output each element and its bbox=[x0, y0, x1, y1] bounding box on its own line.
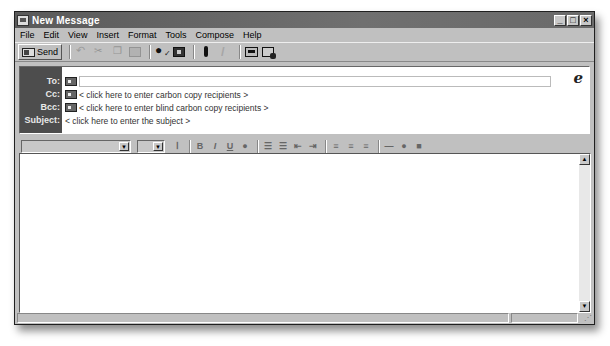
to-label: To: bbox=[47, 75, 60, 88]
menu-format[interactable]: Format bbox=[128, 30, 157, 40]
decrease-indent-icon[interactable]: ⇤ bbox=[292, 141, 304, 151]
toolbar-separator bbox=[189, 140, 191, 153]
scroll-down-button[interactable]: ▼ bbox=[579, 301, 590, 312]
bullet-list-icon[interactable]: ☰ bbox=[277, 141, 289, 151]
menu-file[interactable]: File bbox=[20, 30, 35, 40]
toolbar-separator bbox=[69, 45, 71, 59]
resize-grip[interactable]: ⋰ bbox=[580, 313, 592, 323]
bcc-row: < click here to enter blind carbon copy … bbox=[65, 101, 586, 114]
message-body[interactable]: ▲ ▼ bbox=[19, 153, 591, 313]
send-label: Send bbox=[37, 47, 58, 57]
bcc-field[interactable]: < click here to enter blind carbon copy … bbox=[79, 103, 268, 113]
status-bar: ⋰ bbox=[17, 313, 592, 323]
to-row bbox=[65, 75, 586, 88]
toolbar-separator bbox=[239, 45, 241, 59]
sign-icon[interactable] bbox=[217, 46, 231, 58]
send-icon bbox=[22, 48, 35, 57]
menu-edit[interactable]: Edit bbox=[44, 30, 60, 40]
scroll-up-button[interactable]: ▲ bbox=[579, 154, 590, 165]
close-button[interactable]: × bbox=[580, 15, 592, 26]
font-size-select[interactable]: ▼ bbox=[137, 140, 165, 153]
numbered-list-icon[interactable]: ☰ bbox=[262, 141, 274, 151]
menu-compose[interactable]: Compose bbox=[195, 30, 234, 40]
cc-address-book-icon[interactable] bbox=[65, 90, 77, 99]
address-book-icon[interactable] bbox=[173, 47, 185, 57]
title-bar[interactable]: New Message _ □ × bbox=[15, 12, 594, 28]
attach-icon[interactable] bbox=[199, 46, 213, 58]
menu-tools[interactable]: Tools bbox=[165, 30, 186, 40]
maximize-button[interactable]: □ bbox=[567, 15, 579, 26]
italic-button[interactable]: I bbox=[209, 141, 221, 151]
menu-insert[interactable]: Insert bbox=[96, 30, 119, 40]
toolbar-separator bbox=[149, 45, 151, 59]
status-pane-main bbox=[17, 313, 509, 323]
toolbar-separator bbox=[193, 45, 195, 59]
offline-icon[interactable] bbox=[262, 47, 274, 57]
subject-label: Subject: bbox=[24, 114, 60, 127]
status-pane-secondary bbox=[511, 313, 578, 323]
to-address-book-icon[interactable] bbox=[65, 77, 77, 86]
font-color-icon[interactable]: ● bbox=[239, 141, 251, 151]
message-header-panel: To: Cc: Bcc: Subject: < click here to en… bbox=[19, 66, 590, 134]
minimize-button[interactable]: _ bbox=[554, 15, 566, 26]
align-right-icon[interactable]: ≡ bbox=[360, 141, 372, 151]
vertical-scrollbar[interactable]: ▲ ▼ bbox=[579, 154, 590, 312]
toolbar-separator bbox=[257, 140, 259, 153]
main-toolbar: Send bbox=[15, 42, 594, 62]
header-fields: < click here to enter carbon copy recipi… bbox=[62, 67, 589, 133]
menu-help[interactable]: Help bbox=[243, 30, 262, 40]
chevron-down-icon[interactable]: ▼ bbox=[153, 142, 163, 151]
toolbar-separator bbox=[378, 140, 380, 153]
bold-button[interactable]: B bbox=[194, 141, 206, 151]
subject-row: < click here to enter the subject > bbox=[65, 114, 586, 127]
menu-view[interactable]: View bbox=[68, 30, 87, 40]
cc-row: < click here to enter carbon copy recipi… bbox=[65, 88, 586, 101]
message-app-icon bbox=[17, 15, 29, 26]
window-title: New Message bbox=[32, 15, 554, 26]
increase-indent-icon[interactable]: ⇥ bbox=[307, 141, 319, 151]
chevron-down-icon[interactable]: ▼ bbox=[119, 142, 129, 151]
align-center-icon[interactable]: ≡ bbox=[345, 141, 357, 151]
check-names-icon[interactable] bbox=[155, 46, 169, 58]
to-input[interactable] bbox=[79, 76, 551, 87]
new-message-window: New Message _ □ × File Edit View Insert … bbox=[14, 11, 595, 325]
insert-picture-icon[interactable]: ■ bbox=[413, 141, 425, 151]
undo-icon[interactable] bbox=[75, 46, 89, 58]
cut-icon[interactable] bbox=[93, 46, 107, 58]
paste-icon[interactable] bbox=[129, 47, 141, 57]
paragraph-style-icon[interactable]: Ⅰ bbox=[171, 141, 183, 151]
align-left-icon[interactable]: ≡ bbox=[330, 141, 342, 151]
font-name-select[interactable]: ▼ bbox=[21, 140, 131, 153]
subject-field[interactable]: < click here to enter the subject > bbox=[65, 116, 190, 126]
cc-label: Cc: bbox=[45, 88, 60, 101]
cc-field[interactable]: < click here to enter carbon copy recipi… bbox=[79, 90, 248, 100]
insert-hyperlink-icon[interactable]: ● bbox=[398, 141, 410, 151]
send-button[interactable]: Send bbox=[18, 44, 62, 60]
internet-explorer-icon: e bbox=[573, 69, 583, 87]
toolbar-separator bbox=[325, 140, 327, 153]
copy-icon[interactable] bbox=[111, 46, 125, 58]
bcc-address-book-icon[interactable] bbox=[65, 103, 77, 112]
header-labels: To: Cc: Bcc: Subject: bbox=[20, 67, 62, 133]
encrypt-icon[interactable] bbox=[245, 47, 258, 57]
menu-bar: File Edit View Insert Format Tools Compo… bbox=[15, 28, 594, 42]
bcc-label: Bcc: bbox=[40, 101, 60, 114]
horizontal-line-icon[interactable]: — bbox=[383, 141, 395, 151]
underline-button[interactable]: U bbox=[224, 141, 236, 151]
